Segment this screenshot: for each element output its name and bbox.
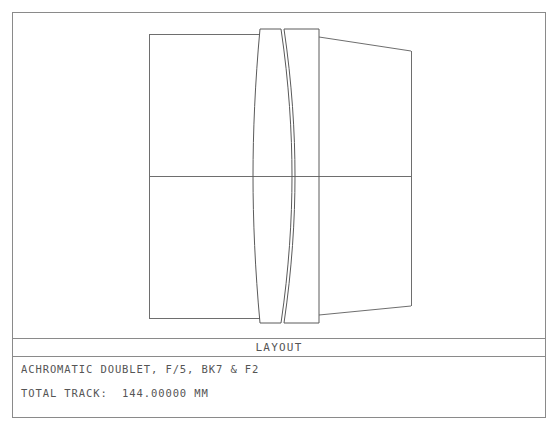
plot-title-bar: LAYOUT bbox=[13, 338, 545, 357]
caption-total-track: TOTAL TRACK: 144.00000 MM bbox=[21, 388, 545, 399]
page-title: LAYOUT bbox=[256, 342, 303, 353]
ray-exit-upper bbox=[319, 37, 411, 51]
layout-plot-page: LAYOUT ACHROMATIC DOUBLET, F/5, BK7 & F2… bbox=[0, 0, 558, 436]
optical-layout-drawing bbox=[13, 13, 545, 338]
caption-system-description: ACHROMATIC DOUBLET, F/5, BK7 & F2 bbox=[21, 364, 545, 375]
plot-frame: LAYOUT ACHROMATIC DOUBLET, F/5, BK7 & F2… bbox=[12, 12, 546, 418]
ray-exit-lower bbox=[319, 306, 411, 315]
caption-block: ACHROMATIC DOUBLET, F/5, BK7 & F2 TOTAL … bbox=[13, 357, 545, 417]
layout-svg bbox=[13, 13, 545, 338]
